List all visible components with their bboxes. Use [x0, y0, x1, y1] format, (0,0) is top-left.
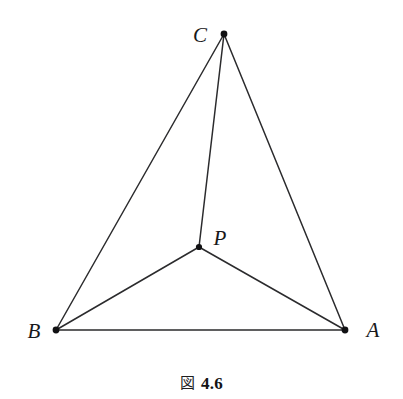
vertex-dot-c	[221, 31, 228, 38]
segment-pb	[56, 247, 199, 330]
segment-layer	[56, 34, 345, 330]
vertex-dot-a	[342, 327, 349, 334]
segment-bc	[56, 34, 224, 330]
vertex-dot-p	[196, 244, 202, 250]
triangle-diagram	[0, 0, 403, 399]
caption-number: 4.6	[201, 375, 223, 392]
figure-container: C P B A 図 4.6	[0, 0, 403, 399]
vertex-label-b: B	[28, 321, 41, 342]
vertex-label-c: C	[193, 25, 207, 46]
segment-ca	[224, 34, 345, 330]
segment-pc	[199, 34, 224, 247]
vertex-dot-b	[53, 327, 60, 334]
segment-pa	[199, 247, 345, 330]
vertex-label-a: A	[367, 320, 380, 341]
figure-caption: 図 4.6	[0, 370, 403, 396]
vertex-label-p: P	[214, 228, 227, 249]
caption-cjk-glyph: 図	[180, 376, 195, 391]
